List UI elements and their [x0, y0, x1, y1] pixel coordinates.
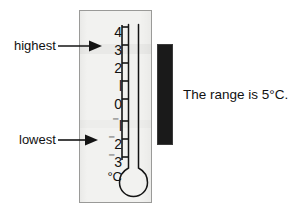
callout-lowest: lowest — [19, 132, 98, 148]
scale-label-2: 2 — [96, 56, 122, 75]
scale-label-minus-3: ⁻3 — [96, 150, 122, 169]
scale-value: 3 — [114, 154, 122, 170]
callout-highest: highest — [14, 38, 102, 54]
unit-label: °C — [92, 170, 122, 183]
range-bar — [157, 44, 173, 145]
scale-label-1: l — [96, 74, 122, 93]
worksheet-canvas: 4 3 2 l 0 ⁻l ⁻2 ⁻3 °C highest lowest — [0, 0, 295, 216]
callout-highest-label: highest — [14, 38, 56, 54]
arrow-right-icon — [58, 39, 102, 53]
scale-value: 0 — [114, 96, 122, 112]
range-caption: The range is 5°C. — [183, 86, 288, 103]
callout-lowest-label: lowest — [19, 132, 56, 148]
scale-label-0: 0 — [96, 92, 122, 111]
arrow-right-icon — [58, 133, 98, 147]
scale-label-4: 4 — [96, 20, 122, 39]
